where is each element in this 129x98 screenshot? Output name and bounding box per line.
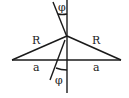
a-left-label: a xyxy=(33,61,40,74)
angle-arc-bottom xyxy=(56,68,67,70)
a-right-label: a xyxy=(93,61,100,74)
geometry-diagram: φ φ R R a a xyxy=(0,0,129,98)
phi-top-label: φ xyxy=(58,1,66,14)
angle-arc-top xyxy=(58,14,67,15)
phi-bottom-label: φ xyxy=(55,74,63,87)
R-right-label: R xyxy=(92,34,101,47)
R-left-label: R xyxy=(32,34,41,47)
